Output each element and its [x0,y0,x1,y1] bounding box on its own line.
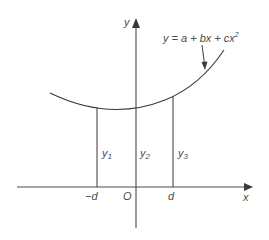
equation-label: y = a + bx + cx2 [162,31,239,44]
x-axis-arrow-icon [244,183,253,191]
quadratic-curve [50,50,224,109]
x-axis-label: x [242,191,249,203]
ordinate-label-y2: y2 [139,147,151,161]
y-axis-label: y [123,16,131,28]
origin-label: O [123,190,132,202]
equation-pointer-arrow-icon [202,45,205,64]
tick-label-d: d [168,190,175,202]
equation-pointer-arrowhead-icon [202,62,208,71]
tick-label-minus-d: −d [85,190,98,202]
diagram-canvas: y x O −d d y1 y2 y3 y = a + bx + cx2 [0,0,269,240]
ordinate-label-y1: y1 [101,147,112,161]
ordinate-label-y3: y3 [177,147,189,161]
y-axis-arrow-icon [132,18,140,28]
